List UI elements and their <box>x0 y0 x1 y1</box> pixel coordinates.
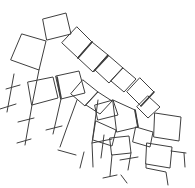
sketch-emphasis-line <box>78 42 92 58</box>
freehand-squares-sketch <box>0 0 195 188</box>
sketch-stem-line <box>92 100 98 167</box>
sketch-tick-line <box>121 175 127 183</box>
sketch-square <box>154 113 181 141</box>
sketch-figure <box>0 0 195 188</box>
sketch-stem-line <box>110 155 112 176</box>
sketch-square <box>133 127 153 147</box>
sketch-stem-line <box>184 153 185 167</box>
sketch-tick-line <box>120 157 138 160</box>
sketch-stem-line <box>53 99 61 134</box>
sketch-tick-line <box>17 139 31 143</box>
sketch-square <box>111 68 136 92</box>
sketch-emphasis-line <box>141 92 154 106</box>
sketch-stem-line <box>60 100 77 147</box>
sketch-square <box>127 78 154 106</box>
sketch-stem-line <box>101 135 104 158</box>
sketch-square <box>137 96 160 118</box>
sketch-square <box>43 13 71 40</box>
sketch-tick-line <box>58 150 76 155</box>
sketch-tick-line <box>80 152 84 168</box>
sketch-tick-line <box>6 85 20 89</box>
sketch-square <box>110 136 131 155</box>
sketch-emphasis-line <box>94 56 108 71</box>
sketch-square <box>62 27 92 58</box>
sketch-square <box>113 100 138 132</box>
sketch-tick-line <box>18 118 34 122</box>
sketch-square <box>95 55 123 83</box>
sketch-square <box>86 92 112 114</box>
sketch-square <box>11 34 46 70</box>
sketch-emphasis-line <box>135 110 138 127</box>
sketch-tick-line <box>171 151 186 153</box>
sketch-stem-line <box>128 153 131 170</box>
sketch-square <box>78 42 108 72</box>
